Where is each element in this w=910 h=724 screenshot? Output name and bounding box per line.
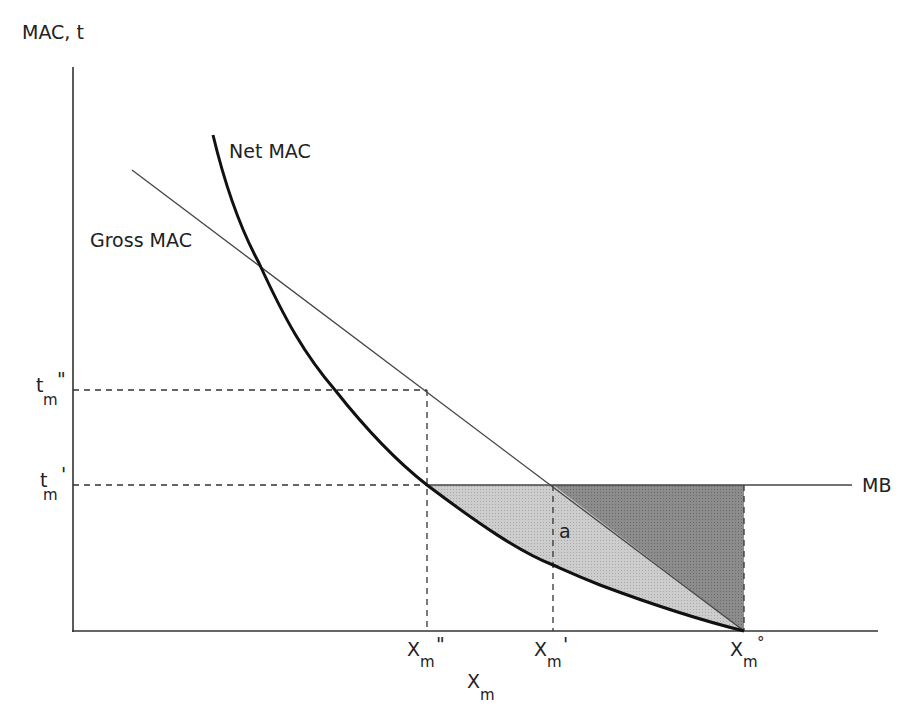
svg-text:": " bbox=[436, 633, 445, 655]
svg-text:m: m bbox=[547, 653, 562, 671]
gross-mac-line bbox=[132, 170, 744, 631]
svg-text:": " bbox=[57, 368, 66, 390]
svg-text:X: X bbox=[407, 638, 420, 660]
tick-x-prime: X m ' bbox=[534, 633, 568, 671]
x-axis-label: X m bbox=[467, 670, 495, 704]
svg-text:m: m bbox=[743, 653, 758, 671]
gross-mac-label: Gross MAC bbox=[90, 229, 192, 251]
net-mac-label: Net MAC bbox=[229, 140, 311, 162]
tick-x-dprime: X m " bbox=[407, 633, 445, 671]
svg-text:m: m bbox=[43, 391, 58, 409]
svg-text:X: X bbox=[534, 638, 547, 660]
tick-x-degree: X m ° bbox=[730, 634, 765, 671]
area-a-label: a bbox=[559, 520, 571, 542]
mb-label: MB bbox=[862, 474, 891, 496]
svg-text:m: m bbox=[480, 686, 495, 704]
svg-text:X: X bbox=[467, 670, 480, 692]
svg-text:': ' bbox=[563, 633, 568, 655]
svg-text:°: ° bbox=[757, 634, 765, 652]
svg-text:m: m bbox=[420, 653, 435, 671]
svg-text:X: X bbox=[730, 638, 743, 660]
svg-text:': ' bbox=[61, 463, 66, 485]
mac-diagram: MAC, t Net MAC Gross MAC MB a t m " t m … bbox=[0, 0, 910, 724]
svg-text:m: m bbox=[43, 486, 58, 504]
tick-t-dprime: t m " bbox=[36, 368, 66, 409]
tick-t-prime: t m ' bbox=[40, 463, 66, 504]
y-axis-label: MAC, t bbox=[22, 21, 84, 43]
